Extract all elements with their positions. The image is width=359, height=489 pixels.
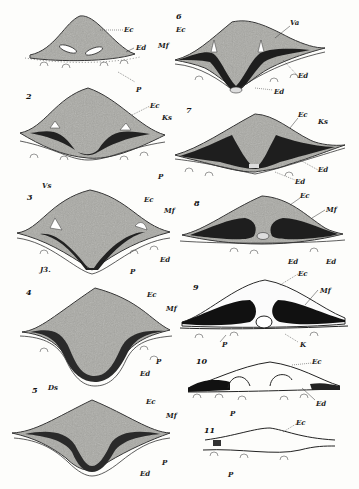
label-p4-ds: Ds xyxy=(48,384,58,391)
label-p5-p: P xyxy=(162,459,167,466)
section-11 xyxy=(203,424,335,452)
label-p9-mf: Mf xyxy=(320,287,331,294)
label-p6-ec: Ec xyxy=(176,26,186,33)
label-p2-p: P xyxy=(158,173,163,180)
label-p10-ec: Ec xyxy=(312,358,322,365)
label-p3-p: P xyxy=(130,268,135,275)
section-8 xyxy=(180,196,345,244)
section-9 xyxy=(180,274,348,342)
label-p4-ed: Ed xyxy=(140,370,150,377)
label-p2-ks: Ks xyxy=(162,114,172,121)
number-p6: 6 xyxy=(176,12,182,20)
label-p3-ec: Ec xyxy=(144,196,154,203)
label-p6-va: Va xyxy=(290,19,299,26)
label-p7-ed2: Ed xyxy=(295,178,305,185)
label-p8-ec: Ec xyxy=(300,192,310,199)
label-p9-p: P xyxy=(222,341,227,348)
label-p7-ks: Ks xyxy=(318,118,328,125)
number-p4: 4 xyxy=(26,288,32,296)
label-p1-ed: Ed xyxy=(136,44,146,51)
label-p1-ec: Ec xyxy=(124,26,134,33)
number-p8: 8 xyxy=(194,199,200,207)
label-p10-ed: Ed xyxy=(316,400,326,407)
label-p4-p: P xyxy=(156,358,161,365)
label-p11-p: P xyxy=(228,471,233,478)
number-p10: 10 xyxy=(196,357,207,365)
label-p9-ec: Ec xyxy=(298,270,308,277)
label-p6-ed1: Ed xyxy=(298,72,308,79)
label-p8-ed2: Ed xyxy=(326,258,336,265)
label-p7-ed1: Ed xyxy=(318,166,328,173)
section-1 xyxy=(25,16,140,82)
section-2 xyxy=(20,88,165,160)
label-p1-mf: Mf xyxy=(158,42,169,49)
label-p2-ec: Ec xyxy=(150,102,160,109)
label-p3-ed: Ed xyxy=(160,256,170,263)
label-p3-j: J3. xyxy=(40,266,51,273)
label-p1-p: P xyxy=(136,86,141,93)
number-p3: 3 xyxy=(27,193,33,201)
number-p9: 9 xyxy=(193,283,199,291)
number-p11: 11 xyxy=(204,426,215,434)
number-p7: 7 xyxy=(186,106,192,114)
label-p7-ec: Ec xyxy=(298,111,308,118)
label-p10-p: P xyxy=(230,410,235,417)
label-p5-ec: Ec xyxy=(146,398,156,405)
label-p4-ec: Ec xyxy=(147,291,157,298)
label-p6-ed2: Ed xyxy=(274,88,284,95)
label-p8-mf: Mf xyxy=(326,206,337,213)
label-p9-k: K xyxy=(300,341,306,348)
label-p8-ed1: Ed xyxy=(288,258,298,265)
number-p5: 5 xyxy=(32,386,38,394)
label-p3-mf: Mf xyxy=(164,207,175,214)
label-p3-vs: Vs xyxy=(42,182,51,189)
label-p5-mf: Mf xyxy=(166,412,177,419)
label-p5-ed: Ed xyxy=(140,470,150,477)
label-p11-ec: Ec xyxy=(296,419,306,426)
section-6 xyxy=(175,21,325,93)
figure-plate: Ec Ed Mf P 2 Ec Ks P 3 Vs Ec Mf Ed P J3.… xyxy=(0,0,359,489)
label-p4-mf: Mf xyxy=(166,305,177,312)
section-5 xyxy=(12,400,170,476)
number-p2: 2 xyxy=(26,92,32,100)
section-10 xyxy=(188,362,340,400)
